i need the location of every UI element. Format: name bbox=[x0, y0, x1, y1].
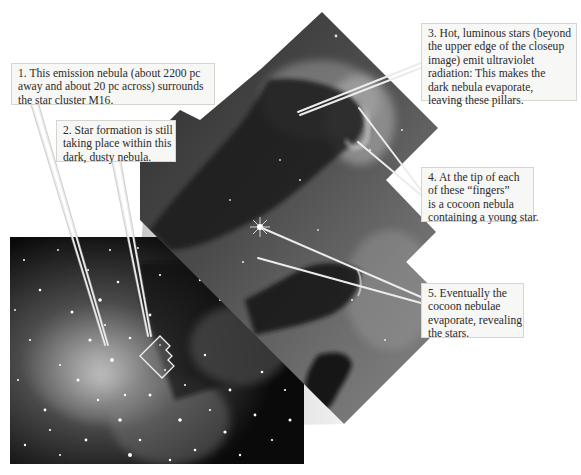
callout-5-line-2: cocoon nebulae bbox=[428, 300, 518, 313]
callout-4-cocoon-nebula: 4. At the tip of each of these “fingers”… bbox=[421, 167, 534, 222]
callout-5-line-1: 5. Eventually the bbox=[428, 287, 518, 300]
callout-2-line-3: dark, dusty nebula. bbox=[63, 151, 170, 164]
callout-3-line-2: the upper edge of the closeup bbox=[428, 40, 571, 53]
callout-2-line-1: 2. Star formation is still bbox=[63, 124, 170, 137]
callout-1-line-2: away and about 20 pc across) surrounds bbox=[18, 80, 209, 93]
callout-5-cocoon-evaporation: 5. Eventually the cocoon nebulae evapora… bbox=[421, 283, 524, 338]
callout-2-line-2: taking place within this bbox=[63, 137, 170, 150]
callout-3-hot-luminous-stars: 3. Hot, luminous stars (beyond the upper… bbox=[421, 23, 577, 101]
figure-stage: 1. This emission nebula (about 2200 pc a… bbox=[0, 0, 581, 475]
callout-4-line-2: of these “fingers” bbox=[428, 184, 528, 197]
callout-5-line-4: the stars. bbox=[428, 327, 518, 340]
callout-1-emission-nebula: 1. This emission nebula (about 2200 pc a… bbox=[11, 63, 215, 105]
callout-4-line-1: 4. At the tip of each bbox=[428, 171, 528, 184]
callout-3-line-4: radiation: This makes the bbox=[428, 67, 571, 80]
callout-3-line-5: dark nebula evaporate, bbox=[428, 81, 571, 94]
callout-1-line-3: the star cluster M16. bbox=[18, 94, 209, 107]
callout-5-line-3: evaporate, revealing bbox=[428, 314, 518, 327]
callout-4-line-3: is a cocoon nebula bbox=[428, 198, 528, 211]
callout-3-line-6: leaving these pillars. bbox=[428, 94, 571, 107]
callout-4-line-4: containing a young star. bbox=[428, 211, 528, 224]
callout-3-line-3: image) emit ultraviolet bbox=[428, 54, 571, 67]
callout-1-line-1: 1. This emission nebula (about 2200 pc bbox=[18, 67, 209, 80]
callout-2-star-formation: 2. Star formation is still taking place … bbox=[56, 120, 176, 162]
callout-3-line-1: 3. Hot, luminous stars (beyond bbox=[428, 27, 571, 40]
